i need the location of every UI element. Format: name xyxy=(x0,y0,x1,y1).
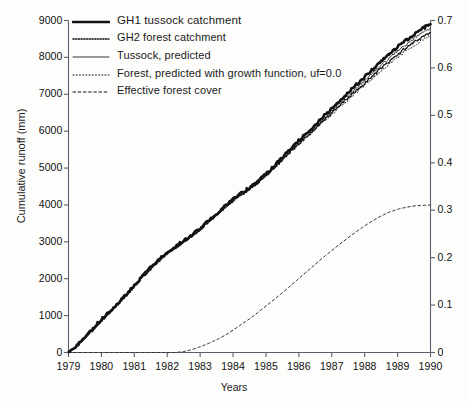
x-tick-label: 1985 xyxy=(250,360,282,372)
x-tick-label: 1990 xyxy=(415,360,447,372)
y-tick-label-left: 3000 xyxy=(39,235,63,247)
y-tick-label-left: 7000 xyxy=(39,87,63,99)
y-tick-label-right: 0.5 xyxy=(438,108,453,120)
legend-label: Effective forest cover xyxy=(117,84,222,96)
x-tick-label: 1989 xyxy=(382,360,414,372)
x-tick-label: 1979 xyxy=(53,360,85,372)
y-tick-label-left: 0 xyxy=(57,346,63,358)
chart-figure: Cumulative runoff (mm) Years GH1 tussock… xyxy=(0,0,468,402)
x-tick-label: 1981 xyxy=(118,360,150,372)
y-axis-title-left: Cumulative runoff (mm) xyxy=(15,101,27,231)
series-line-dashed xyxy=(69,205,431,353)
y-tick-label-left: 5000 xyxy=(39,161,63,173)
y-tick-label-right: 0.3 xyxy=(438,203,453,215)
x-tick-label: 1986 xyxy=(283,360,315,372)
legend-item: Tussock, predicted xyxy=(72,46,341,64)
x-tick-label: 1984 xyxy=(217,360,249,372)
y-tick-label-left: 8000 xyxy=(39,50,63,62)
y-tick-label-right: 0.1 xyxy=(438,298,453,310)
x-tick-label: 1980 xyxy=(85,360,117,372)
chart-legend: GH1 tussock catchmentGH2 forest catchmen… xyxy=(72,11,341,99)
x-axis-title: Years xyxy=(0,381,468,393)
y-tick-label-left: 4000 xyxy=(39,198,63,210)
legend-line-sample xyxy=(72,49,110,61)
legend-item: GH1 tussock catchment xyxy=(72,11,341,29)
y-tick-label-left: 2000 xyxy=(39,272,63,284)
y-tick-label-left: 9000 xyxy=(39,14,63,26)
legend-item: Forest, predicted with growth function, … xyxy=(72,64,341,82)
legend-line-sample xyxy=(72,84,110,96)
legend-label: Forest, predicted with growth function, … xyxy=(117,67,341,79)
x-tick-label: 1982 xyxy=(151,360,183,372)
y-tick-label-right: 0.4 xyxy=(438,156,453,168)
legend-line-sample xyxy=(72,14,110,26)
legend-line-sample xyxy=(72,31,110,43)
y-tick-label-right: 0 xyxy=(438,346,444,358)
y-tick-label-left: 6000 xyxy=(39,124,63,136)
y-tick-label-right: 0.7 xyxy=(438,14,453,26)
x-tick-label: 1987 xyxy=(316,360,348,372)
x-tick-label: 1983 xyxy=(184,360,216,372)
y-tick-label-left: 1000 xyxy=(39,309,63,321)
x-tick-label: 1988 xyxy=(349,360,381,372)
legend-line-sample xyxy=(72,67,110,79)
legend-label: GH2 forest catchment xyxy=(117,31,226,43)
y-tick-label-right: 0.2 xyxy=(438,251,453,263)
legend-label: Tussock, predicted xyxy=(117,49,211,61)
y-tick-label-right: 0.6 xyxy=(438,61,453,73)
legend-label: GH1 tussock catchment xyxy=(117,14,241,26)
legend-item: Effective forest cover xyxy=(72,81,341,99)
legend-item: GH2 forest catchment xyxy=(72,29,341,47)
